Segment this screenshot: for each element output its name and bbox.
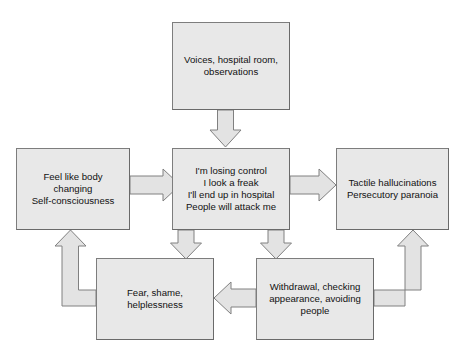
psychotic-experiences-node-label: Tactile hallucinations Persecutory paran… [344, 177, 441, 201]
arrow-beliefs-to-behaviour [261, 230, 292, 259]
emotions-node-label: Fear, shame, helplessness [124, 287, 186, 311]
arrow-emotions-to-physical [55, 230, 96, 306]
beliefs-node-label: I'm losing control I look a freak I'll e… [183, 165, 279, 212]
physical-sensations-node-label: Feel like body changing Self-consciousne… [29, 171, 118, 206]
arrow-behaviour-to-psychotic [374, 230, 429, 306]
trigger-node-label: Voices, hospital room, observations [181, 54, 281, 78]
behaviour-node-label: Withdrawal, checking appearance, avoidin… [266, 281, 364, 316]
arrow-behaviour-to-emotions [214, 282, 256, 314]
physical-sensations-node[interactable]: Feel like body changing Self-consciousne… [16, 148, 130, 230]
behaviour-node[interactable]: Withdrawal, checking appearance, avoidin… [256, 258, 374, 340]
arrow-beliefs-to-psychotic [290, 169, 336, 201]
emotions-node[interactable]: Fear, shame, helplessness [96, 258, 214, 340]
arrow-beliefs-to-emotions [171, 230, 202, 259]
formulation-diagram: Voices, hospital room, observations I'm … [0, 0, 463, 355]
arrow-trigger-to-beliefs [210, 110, 241, 147]
trigger-node[interactable]: Voices, hospital room, observations [172, 22, 290, 110]
psychotic-experiences-node[interactable]: Tactile hallucinations Persecutory paran… [336, 148, 449, 230]
beliefs-node[interactable]: I'm losing control I look a freak I'll e… [172, 148, 290, 230]
